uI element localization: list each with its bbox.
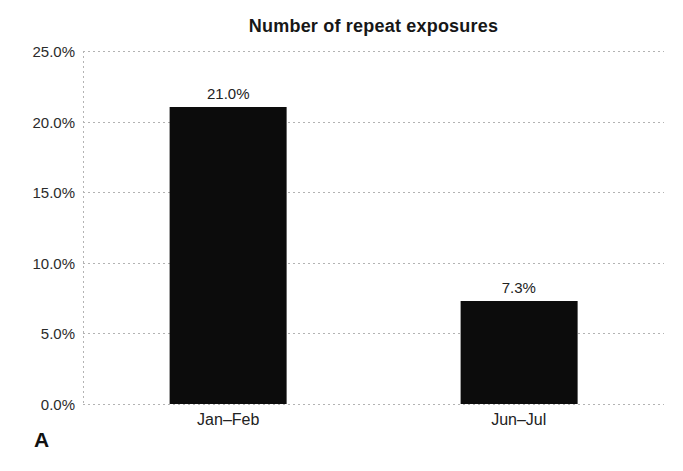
y-axis-tick-label: 10.0% xyxy=(32,254,75,271)
bar-1 xyxy=(170,107,287,404)
y-axis-tick-label: 0.0% xyxy=(41,396,75,413)
y-axis-tick-label: 20.0% xyxy=(32,113,75,130)
y-axis-tick-label: 25.0% xyxy=(32,43,75,60)
chart-title: Number of repeat exposures xyxy=(83,16,664,37)
y-axis-tick-label: 15.0% xyxy=(32,184,75,201)
bar-value-label: 21.0% xyxy=(207,85,250,102)
bar-2 xyxy=(460,301,577,404)
plot-area: 0.0%5.0%10.0%15.0%20.0%25.0%21.0%Jan–Feb… xyxy=(83,51,664,404)
gridline xyxy=(83,51,664,52)
y-axis-line xyxy=(83,51,84,404)
panel-letter: A xyxy=(34,428,49,452)
x-axis-category-label: Jun–Jul xyxy=(491,411,546,429)
gridline xyxy=(83,404,664,405)
figure-panel: Number of repeat exposures 0.0%5.0%10.0%… xyxy=(0,0,683,471)
bar-value-label: 7.3% xyxy=(502,279,536,296)
x-axis-category-label: Jan–Feb xyxy=(197,411,259,429)
y-axis-tick-label: 5.0% xyxy=(41,325,75,342)
